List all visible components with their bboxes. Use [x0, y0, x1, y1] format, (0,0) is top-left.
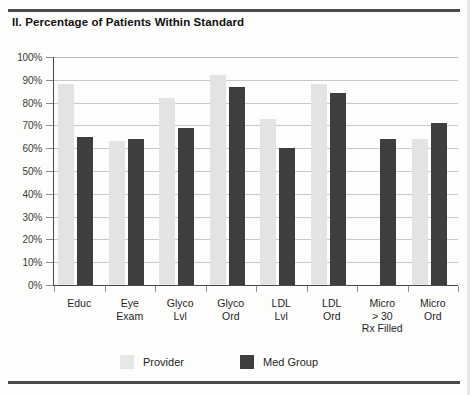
bar-group	[307, 51, 358, 285]
y-axis-tick-label: 20%	[23, 234, 42, 245]
y-axis-tick-mark	[46, 262, 53, 263]
y-axis-tick-label: 70%	[23, 120, 42, 131]
bar-group	[105, 51, 156, 285]
x-axis-labels: EducEyeExamGlycoLvlGlycoOrdLDLLvlLDLOrdM…	[54, 297, 458, 347]
chart-page: II. Percentage of Patients Within Standa…	[0, 0, 470, 395]
x-axis-label-line: Ord	[403, 310, 463, 323]
y-axis-tick-mark	[46, 80, 53, 81]
plot-area: 100%90%80%70%60%50%40%30%20%10%0%	[12, 50, 458, 295]
y-axis-tick-mark	[46, 57, 53, 58]
y-axis-tick-label: 80%	[23, 97, 42, 108]
y-axis-tick-mark	[46, 148, 53, 149]
bar-med-group	[330, 93, 346, 285]
x-axis-tick-mark	[408, 286, 409, 292]
chart-legend: Provider Med Group	[0, 355, 470, 377]
y-axis-tick-mark	[46, 194, 53, 195]
bar-med-group	[77, 137, 93, 285]
y-axis-labels: 100%90%80%70%60%50%40%30%20%10%0%	[12, 50, 46, 295]
legend-label-med-group: Med Group	[263, 356, 318, 368]
y-axis-tick-mark	[46, 103, 53, 104]
x-axis-tick-mark	[206, 286, 207, 292]
y-axis-tick-label: 100%	[17, 52, 42, 63]
bar-provider	[311, 84, 327, 285]
y-axis-tick-label: 0%	[28, 280, 42, 291]
bar-provider	[412, 139, 428, 285]
legend-swatch-provider	[120, 355, 134, 369]
bottom-divider-rule	[8, 381, 460, 384]
x-axis-label-line: Rx Filled	[352, 322, 412, 335]
bar-provider	[58, 84, 74, 285]
legend-item-provider: Provider	[120, 355, 184, 369]
y-axis-tick-mark	[46, 217, 53, 218]
bar-med-group	[431, 123, 447, 285]
legend-item-med-group: Med Group	[240, 355, 318, 369]
x-axis-tick-mark	[357, 286, 358, 292]
bar-med-group	[279, 148, 295, 285]
bar-group	[357, 51, 408, 285]
bar-groups	[54, 50, 458, 286]
x-axis-tick-mark	[54, 286, 55, 292]
bar-med-group	[128, 139, 144, 285]
y-axis-tick-label: 10%	[23, 257, 42, 268]
y-axis-tick-label: 90%	[23, 74, 42, 85]
y-axis-tick-label: 30%	[23, 211, 42, 222]
x-axis-tick-mark	[155, 286, 156, 292]
bar-group	[256, 51, 307, 285]
bar-provider	[159, 98, 175, 285]
bar-med-group	[178, 128, 194, 285]
bar-group	[206, 51, 257, 285]
legend-swatch-med-group	[240, 355, 254, 369]
y-axis-tick-label: 40%	[23, 188, 42, 199]
y-axis-tick-mark	[46, 285, 53, 286]
bar-provider	[210, 75, 226, 285]
bar-group	[155, 51, 206, 285]
y-axis-tick-mark	[46, 125, 53, 126]
bar-med-group	[380, 139, 396, 285]
top-divider-rule	[8, 9, 460, 12]
x-axis-tick-mark	[307, 286, 308, 292]
bar-med-group	[229, 87, 245, 285]
y-axis-tick-mark	[46, 239, 53, 240]
x-axis-tick-mark	[256, 286, 257, 292]
x-axis-tick-mark	[105, 286, 106, 292]
y-axis-tick-label: 50%	[23, 166, 42, 177]
bar-provider	[109, 141, 125, 285]
x-axis-tick-mark	[458, 286, 459, 292]
bar-group	[54, 51, 105, 285]
y-axis-tick-label: 60%	[23, 143, 42, 154]
legend-label-provider: Provider	[143, 356, 184, 368]
x-axis-category-label: MicroOrd	[403, 297, 463, 322]
chart-title: II. Percentage of Patients Within Standa…	[12, 16, 244, 28]
bar-group	[408, 51, 459, 285]
bar-provider	[260, 119, 276, 285]
y-axis-tick-mark	[46, 171, 53, 172]
x-axis-label-line: Micro	[403, 297, 463, 310]
